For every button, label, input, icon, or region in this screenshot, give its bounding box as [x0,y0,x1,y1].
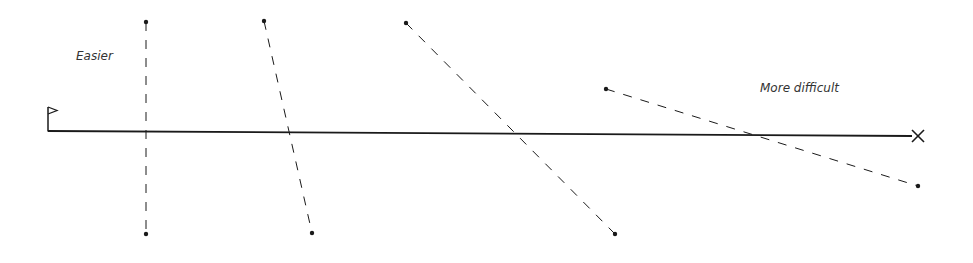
dashed-line [406,23,615,234]
dashed-line [606,89,918,186]
end-dot-icon [613,232,617,236]
end-dot-icon [144,232,148,236]
more-difficult-label: More difficult [760,81,839,95]
cross-icon [912,130,924,142]
end-dot-icon [916,184,920,188]
dashed-segments [144,19,920,236]
difficulty-diagram [0,0,973,263]
flag-icon [48,107,57,132]
baseline-line [48,131,912,136]
dashed-segment-2 [262,19,314,235]
dashed-segment-1 [144,20,148,236]
dashed-segment-3 [404,21,617,236]
start-dot-icon [144,20,148,24]
easier-label: Easier [76,49,113,63]
baseline-axis [48,131,912,136]
dashed-segment-4 [604,87,920,188]
start-dot-icon [604,87,608,91]
start-dot-icon [404,21,408,25]
start-dot-icon [262,19,266,23]
end-dot-icon [310,231,314,235]
dashed-line [264,21,312,233]
